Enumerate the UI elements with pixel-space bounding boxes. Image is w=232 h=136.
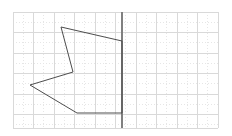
figure-container	[0, 0, 232, 136]
figure-canvas	[0, 0, 232, 136]
